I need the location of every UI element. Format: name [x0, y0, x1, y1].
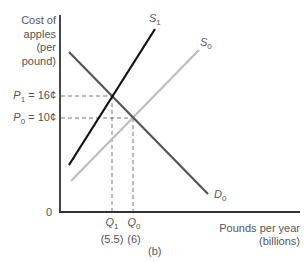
s0-sub: 0: [207, 42, 211, 51]
q0-symbol-row: Q0: [119, 216, 149, 233]
s0-label: S0: [200, 36, 212, 51]
q0-sub: 0: [136, 222, 140, 231]
s1-label: S1: [149, 12, 161, 27]
x-axis-label-line: Pounds per year: [219, 222, 300, 235]
q1-symbol: Q: [105, 216, 114, 228]
s1-sub: 1: [156, 18, 160, 27]
p0-label: P0 = 10¢: [13, 111, 56, 126]
demand-curve-d0: [69, 52, 208, 194]
y-axis-label-line: pound): [21, 55, 56, 69]
y-axis-label: Cost of apples (per pound): [21, 14, 56, 68]
p1-label: P1 = 16¢: [13, 89, 56, 104]
d0-sub: 0: [222, 194, 226, 203]
q0-label: Q0 (6): [119, 216, 149, 245]
figure-caption: (b): [148, 245, 161, 257]
p1-symbol: P: [13, 89, 20, 101]
d0-label: D0: [214, 188, 226, 203]
supply-curve-s1: [69, 29, 155, 165]
y-axis-label-line: apples: [21, 28, 56, 42]
q1-sub: 1: [114, 222, 118, 231]
x-axis-label: Pounds per year (billions): [219, 222, 300, 248]
q0-value: (6): [119, 233, 149, 245]
p1-value: 16¢: [38, 89, 56, 101]
d0-symbol: D: [214, 188, 222, 200]
p1-sub: 1: [21, 95, 25, 104]
x-axis-label-line: (billions): [219, 235, 300, 248]
supply-curve-s0: [71, 50, 199, 181]
p0-value: 10¢: [38, 111, 56, 123]
p0-symbol: P: [13, 111, 20, 123]
y-axis-label-line: Cost of: [21, 14, 56, 28]
y-axis-label-line: (per: [21, 41, 56, 55]
q0-symbol: Q: [127, 216, 136, 228]
origin-label: 0: [46, 206, 52, 218]
p0-sub: 0: [21, 117, 25, 126]
